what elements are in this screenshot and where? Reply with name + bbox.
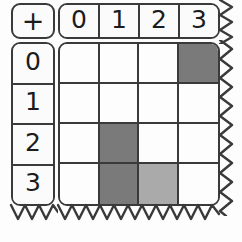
column-header-label: 3 — [191, 7, 207, 32]
table-cell-r3-c0[interactable] — [60, 164, 100, 204]
addition-table-worksheet: + 0123 0123 — [0, 0, 242, 242]
column-header-0[interactable]: 0 — [60, 5, 100, 37]
column-header-label: 1 — [111, 7, 127, 32]
table-cell-r1-c1[interactable] — [100, 84, 140, 124]
column-header-1[interactable]: 1 — [100, 5, 140, 37]
table-cell-r0-c2[interactable] — [139, 44, 179, 84]
operator-cell: + — [11, 3, 55, 39]
row-header-2[interactable]: 2 — [13, 125, 53, 166]
column-header-strip: 0123 — [58, 3, 220, 39]
table-cell-r3-c2[interactable] — [139, 164, 179, 204]
plus-icon: + — [22, 7, 45, 34]
table-cell-r2-c0[interactable] — [60, 124, 100, 164]
column-header-3[interactable]: 3 — [180, 5, 218, 37]
column-header-2[interactable]: 2 — [140, 5, 180, 37]
column-header-label: 2 — [151, 7, 167, 32]
row-header-label: 1 — [25, 89, 41, 114]
column-header-label: 0 — [71, 7, 87, 32]
table-cell-r0-c0[interactable] — [60, 44, 100, 84]
row-header-0[interactable]: 0 — [13, 44, 53, 85]
table-cell-r2-c2[interactable] — [139, 124, 179, 164]
table-cell-r2-c1[interactable] — [100, 124, 140, 164]
table-grid-body — [58, 42, 220, 206]
row-header-3[interactable]: 3 — [13, 166, 53, 205]
row-header-label: 2 — [25, 130, 41, 155]
torn-edge-bottom-body-icon — [55, 202, 222, 232]
table-cell-r1-c0[interactable] — [60, 84, 100, 124]
row-header-strip: 0123 — [11, 42, 55, 206]
table-cell-r1-c2[interactable] — [139, 84, 179, 124]
row-header-label: 3 — [25, 170, 41, 195]
table-cell-r3-c3[interactable] — [179, 164, 219, 204]
table-cell-r2-c3[interactable] — [179, 124, 219, 164]
table-cell-r0-c3[interactable] — [179, 44, 219, 84]
table-cell-r1-c3[interactable] — [179, 84, 219, 124]
table-cell-r3-c1[interactable] — [100, 164, 140, 204]
row-header-1[interactable]: 1 — [13, 85, 53, 126]
torn-edge-bottom-rowheader-icon — [8, 202, 58, 232]
row-header-label: 0 — [25, 49, 41, 74]
table-cell-r0-c1[interactable] — [100, 44, 140, 84]
